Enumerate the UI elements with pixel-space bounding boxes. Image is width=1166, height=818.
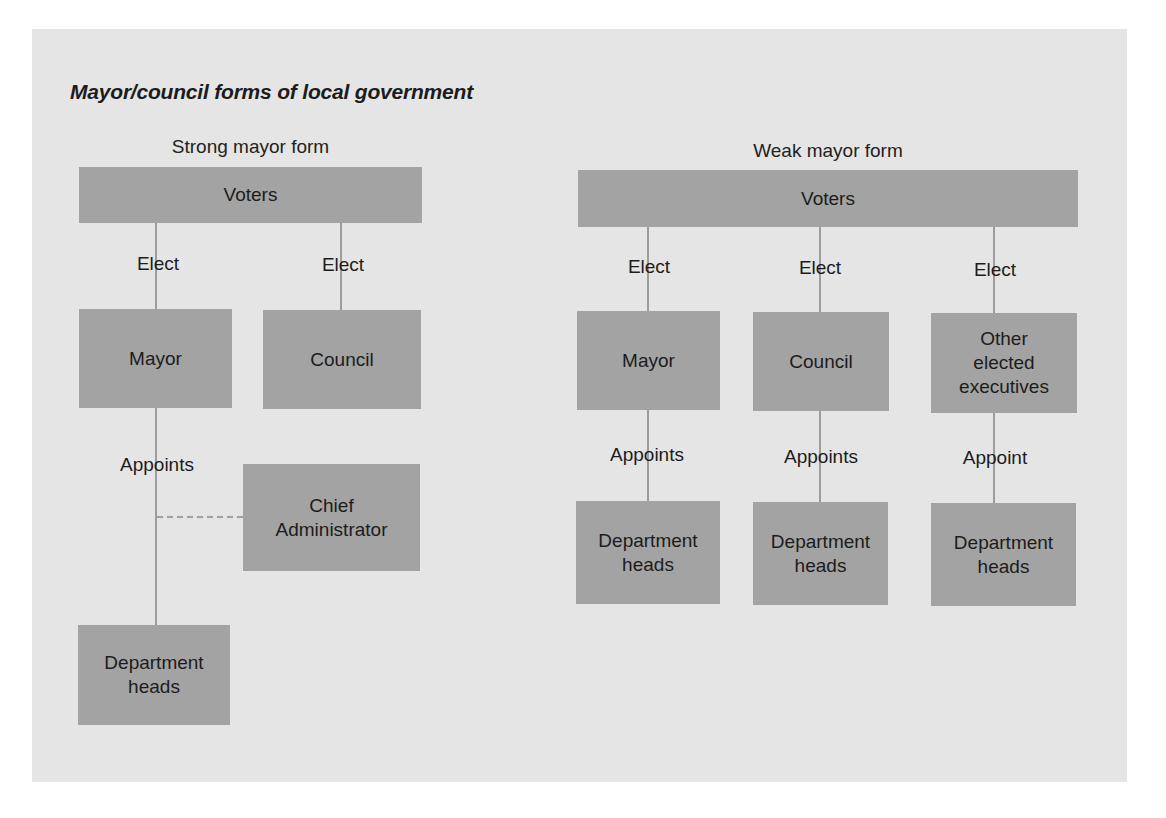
weak-mayor-box: Mayor bbox=[577, 311, 720, 410]
strong-mayor-heading: Strong mayor form bbox=[79, 136, 422, 158]
weak-elect-other-label: Elect bbox=[974, 259, 1016, 281]
weak-council-appoints-label: Appoints bbox=[784, 446, 858, 468]
weak-council-department-heads-box: Department heads bbox=[753, 502, 888, 605]
strong-chief-admin-dashed-connector bbox=[157, 516, 243, 518]
strong-elect-council-label: Elect bbox=[322, 254, 364, 276]
weak-other-appoint-label: Appoint bbox=[963, 447, 1027, 469]
weak-mayor-department-heads-box: Department heads bbox=[576, 501, 720, 604]
weak-other-elected-executives-box: Other elected executives bbox=[931, 313, 1077, 413]
strong-mayor-box: Mayor bbox=[79, 309, 232, 408]
weak-voters-box: Voters bbox=[578, 170, 1078, 227]
diagram-title: Mayor/council forms of local government bbox=[70, 80, 473, 104]
strong-voters-box: Voters bbox=[79, 167, 422, 223]
weak-elect-council-label: Elect bbox=[799, 257, 841, 279]
weak-elect-mayor-label: Elect bbox=[628, 256, 670, 278]
strong-chief-administrator-box: Chief Administrator bbox=[243, 464, 420, 571]
strong-department-heads-box: Department heads bbox=[78, 625, 230, 725]
strong-council-box: Council bbox=[263, 310, 421, 409]
weak-mayor-appoints-label: Appoints bbox=[610, 444, 684, 466]
weak-mayor-heading: Weak mayor form bbox=[578, 140, 1078, 162]
strong-elect-mayor-label: Elect bbox=[137, 253, 179, 275]
weak-other-department-heads-box: Department heads bbox=[931, 503, 1076, 606]
weak-council-box: Council bbox=[753, 312, 889, 411]
strong-appoints-label: Appoints bbox=[120, 454, 194, 476]
